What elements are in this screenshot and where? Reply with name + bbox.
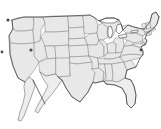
state-OR[interactable] — [9, 29, 34, 44]
baja-peninsula-shape[interactable] — [18, 77, 35, 121]
state-CO[interactable] — [55, 45, 70, 59]
feature-florida-peninsula[interactable] — [104, 78, 136, 108]
marker-dot-chesapeake — [140, 49, 143, 52]
lake-erie — [118, 34, 127, 38]
state-AL[interactable] — [105, 64, 113, 81]
state-SD[interactable] — [69, 27, 85, 39]
state-MT[interactable] — [43, 16, 69, 32]
gulf-of-california-outline — [33, 80, 45, 104]
state-IN[interactable] — [107, 42, 116, 53]
state-MN[interactable] — [83, 15, 98, 34]
region-pacific-northwest[interactable] — [9, 17, 45, 44]
us-states-map-figure: Map of the contiguous United States — [0, 0, 161, 129]
state-ND[interactable] — [68, 16, 84, 28]
marker-dot-nevada — [29, 48, 32, 51]
state-NM[interactable] — [56, 58, 70, 77]
state-IA[interactable] — [85, 33, 99, 45]
lake-huron — [116, 24, 123, 34]
state-WY[interactable] — [41, 31, 69, 46]
state-NE[interactable] — [69, 38, 88, 46]
us-states-map-svg[interactable] — [0, 0, 161, 129]
state-KS[interactable] — [69, 45, 89, 57]
marker-dot-west — [1, 51, 4, 54]
marker-dot-northwest — [6, 18, 9, 21]
